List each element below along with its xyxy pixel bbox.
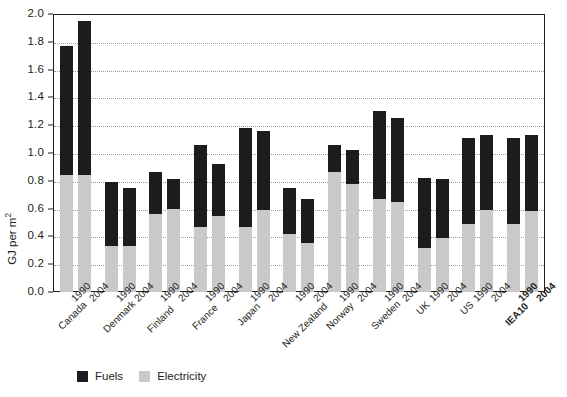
bar [105,182,118,292]
x-axis-country-label: Norway [324,300,356,332]
bar-segment-fuels [418,178,431,248]
bar-segment-electricity [507,224,520,292]
bar [346,150,359,292]
y-axis-tick-label: 1.6 [27,64,44,76]
bar [301,199,314,292]
bar [391,118,404,292]
bar-group [500,14,545,292]
bar [60,46,73,292]
bar [436,179,449,292]
bar-group [277,14,322,292]
bar [525,135,538,292]
bar-segment-fuels [480,135,493,210]
y-axis-tick-label: 1.0 [27,147,44,159]
bar-group [411,14,456,292]
bar-segment-electricity [149,214,162,292]
bar-group [456,14,501,292]
legend-item: Fuels [77,370,123,382]
bar-segment-fuels [78,21,91,175]
y-axis-tick-label: 2.0 [27,8,44,20]
x-axis-country-label: Japan [235,301,262,328]
x-axis-country-label: Canada [56,299,89,332]
bar [462,138,475,292]
bar-segment-electricity [328,172,341,292]
y-axis-tick-label: 1.2 [27,119,44,131]
bar [123,188,136,292]
bar-segment-fuels [194,145,207,227]
bar-segment-fuels [149,172,162,214]
x-axis-country-label: Sweden [369,298,402,331]
bar [480,135,493,292]
x-axis-labels: 19902004Canada19902004Denmark19902004Fin… [0,292,567,372]
bar-segment-electricity [239,227,252,292]
bar-segment-fuels [301,199,314,243]
bar [78,21,91,292]
bar-segment-fuels [373,111,386,199]
bar-segment-fuels [257,131,270,210]
bar [373,111,386,292]
bar [418,178,431,292]
bar-segment-electricity [194,227,207,292]
legend-label: Electricity [157,370,206,382]
bar-group [321,14,366,292]
y-axis-tick-label: 1.8 [27,36,44,48]
x-axis-country-label: Finland [145,304,176,335]
legend-item: Electricity [139,370,206,382]
bar-segment-fuels [346,150,359,183]
bar-segment-fuels [60,46,73,175]
bar-segment-fuels [436,179,449,237]
bar-segment-fuels [105,182,118,246]
bar-group [187,14,232,292]
bar-segment-fuels [507,138,520,224]
y-axis-title: GJ per m2 [4,184,18,294]
bar [283,188,296,292]
bar-segment-fuels [167,179,180,208]
bar-segment-electricity [391,202,404,292]
bar [212,164,225,292]
bar [239,128,252,292]
legend-swatch [139,371,150,382]
x-axis-country-label: US [458,299,476,317]
bar-segment-fuels [328,145,341,173]
bar [328,145,341,292]
chart-legend: FuelsElectricity [77,370,206,382]
y-axis-tick-label: 0.4 [27,231,44,243]
bar-group [142,14,187,292]
bar-segment-electricity [60,175,73,292]
bar-segment-fuels [283,188,296,234]
bar [194,145,207,292]
bar-segment-electricity [78,175,91,292]
x-axis-country-label: IEA10 [503,301,530,328]
x-axis-country-label: France [190,302,220,332]
y-axis-tick-label: 0.8 [27,175,44,187]
bar-segment-fuels [391,118,404,201]
bar-segment-fuels [123,188,136,246]
bar-segment-fuels [525,135,538,211]
y-axis-tick-label: 0.2 [27,258,44,270]
y-axis-tick-label: 1.4 [27,92,44,104]
bar [507,138,520,292]
bar-group [366,14,411,292]
legend-label: Fuels [95,370,123,382]
bar-segment-fuels [462,138,475,224]
bar-segment-fuels [212,164,225,215]
bar [149,172,162,292]
bar [167,179,180,292]
legend-swatch [77,371,88,382]
y-axis-tick-label: 0.6 [27,203,44,215]
y-axis-title-text: GJ per m [6,218,18,265]
bar-segment-electricity [462,224,475,292]
x-axis-country-label: UK [414,299,432,317]
bars-layer [53,14,545,292]
bar-segment-fuels [239,128,252,227]
x-axis-country-label: Denmark [101,299,137,335]
chart-figure: 2.01.81.61.41.21.00.80.60.40.20.0 GJ per… [0,0,567,397]
bar-group [98,14,143,292]
bar-segment-electricity [373,199,386,292]
bar-group [53,14,98,292]
bar-segment-electricity [346,184,359,292]
bar-group [232,14,277,292]
x-axis-country-label: New Zealand [280,300,329,349]
y-axis-title-superscript: 2 [4,213,13,218]
bar [257,131,270,292]
